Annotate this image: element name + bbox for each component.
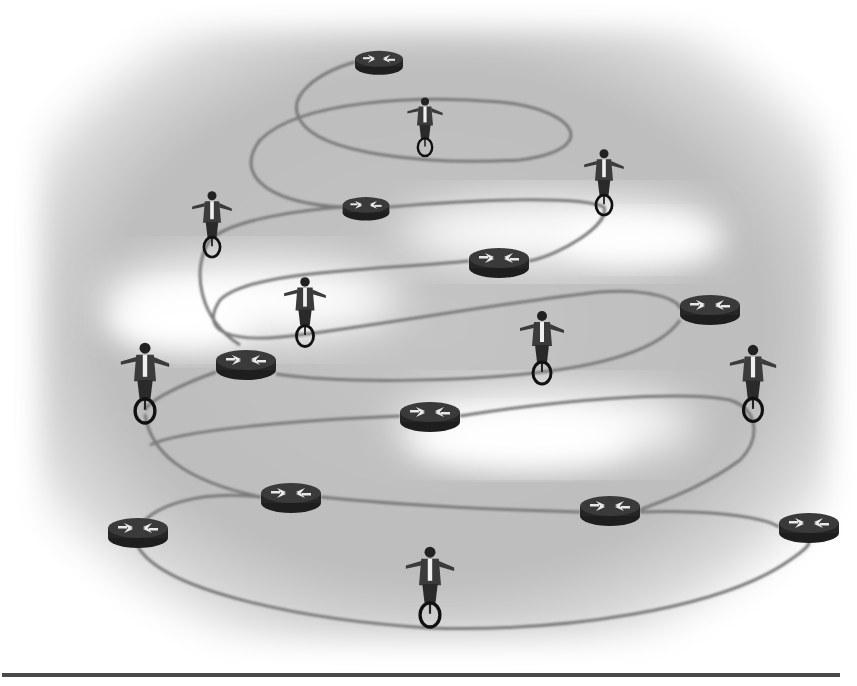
router-icon xyxy=(469,248,529,278)
spiral-network-illustration xyxy=(0,0,857,686)
router-icon xyxy=(108,518,168,548)
router-icon xyxy=(779,513,839,543)
footer-rule xyxy=(2,673,840,677)
router-icon xyxy=(216,350,276,380)
router-icon xyxy=(261,483,321,513)
router-icon xyxy=(400,402,460,432)
router-icon xyxy=(355,51,403,75)
router-icon xyxy=(680,295,740,325)
router-icon xyxy=(580,496,640,526)
router-icon xyxy=(343,197,390,220)
